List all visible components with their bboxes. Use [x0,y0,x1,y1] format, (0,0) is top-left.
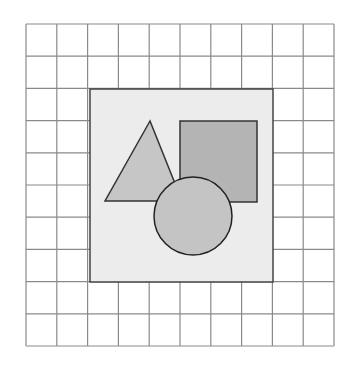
circle-shape [154,177,232,255]
shapes-on-grid-diagram [0,0,351,369]
